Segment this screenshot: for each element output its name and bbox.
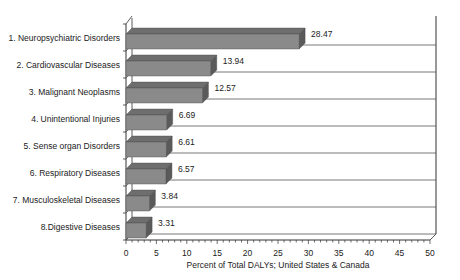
x-tick-label: 10 [182,248,192,258]
x-tick-label: 30 [304,248,314,258]
x-tick-label: 5 [154,248,159,258]
category-labels: 1. Neuropsychiatric Disorders2. Cardiova… [9,33,120,232]
value-label: 28.47 [311,29,333,39]
bars-group: 28.4713.9412.576.696.616.573.843.31 [126,28,333,238]
value-label: 6.61 [178,137,195,147]
category-label: 1. Neuropsychiatric Disorders [9,33,120,43]
x-tick-label: 15 [212,248,222,258]
dalys-bar-chart: 28.4713.9412.576.696.616.573.843.31 1. N… [0,0,460,280]
x-axis-title: Percent of Total DALYs; United States & … [186,260,369,270]
bar: 3.31 [126,217,175,238]
category-label: 4. Unintentional Injuries [31,114,120,124]
category-label: 3. Malignant Neoplasms [29,87,120,97]
bar: 6.61 [126,136,195,157]
x-tick-label: 25 [273,248,283,258]
value-label: 3.84 [161,191,178,201]
bar: 13.94 [126,55,244,76]
plot-frame [123,16,436,240]
bar: 12.57 [126,82,236,103]
value-label: 13.94 [223,56,245,66]
category-label: 5. Sense organ Disorders [24,141,120,151]
x-tick-label: 0 [124,248,129,258]
bar: 6.69 [126,109,195,130]
bar: 28.47 [126,28,333,49]
bar: 6.57 [126,163,195,184]
category-label: 8.Digestive Diseases [41,222,120,232]
category-label: 7. Musculoskeletal Diseases [13,195,120,205]
bar: 3.84 [126,190,178,211]
x-tick-label: 35 [334,248,344,258]
value-label: 6.57 [178,164,195,174]
x-tick-label: 50 [425,248,435,258]
category-label: 6. Respiratory Diseases [30,168,120,178]
category-label: 2. Cardiovascular Diseases [17,60,120,70]
x-tick-label: 20 [243,248,253,258]
value-label: 12.57 [214,83,236,93]
x-tick-label: 40 [364,248,374,258]
value-label: 3.31 [158,218,175,228]
x-tick-label: 45 [395,248,405,258]
x-axis-ticks: 05101520253035404550 [124,240,435,258]
value-label: 6.69 [179,110,196,120]
